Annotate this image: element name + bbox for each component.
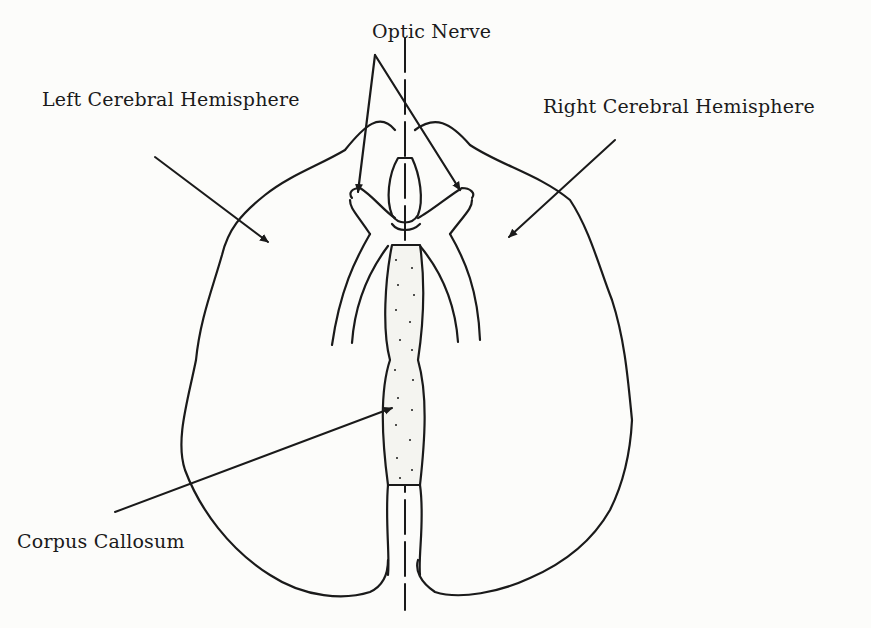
- right-hemisphere-arrow: [509, 140, 615, 237]
- label-corpus-callosum: Corpus Callosum: [17, 530, 185, 552]
- left-hemisphere-arrow: [155, 157, 268, 242]
- label-right-cerebral-hemisphere: Right Cerebral Hemisphere: [543, 95, 815, 117]
- left-hemisphere-outline: [181, 122, 395, 597]
- corpus-callosum-body: [383, 245, 425, 485]
- right-hemisphere-outline: [415, 122, 632, 595]
- corpus-callosum-arrow: [115, 408, 392, 512]
- diagram-canvas: Optic Nerve Left Cerebral Hemisphere Rig…: [0, 0, 871, 628]
- label-left-cerebral-hemisphere: Left Cerebral Hemisphere: [42, 88, 300, 110]
- label-optic-nerve: Optic Nerve: [372, 20, 491, 42]
